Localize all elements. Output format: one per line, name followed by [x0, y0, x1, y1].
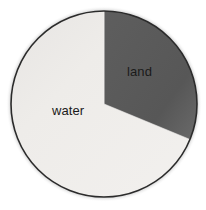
pie-chart-canvas	[0, 0, 206, 210]
pie-chart-figure: land water	[0, 0, 206, 210]
pie-slice-label-water: water	[52, 104, 84, 117]
pie-slice-label-land: land	[127, 65, 152, 78]
